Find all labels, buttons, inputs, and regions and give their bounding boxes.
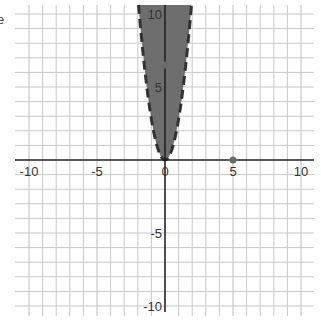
x-tick-label: 0 xyxy=(161,164,168,179)
plotted-point xyxy=(162,62,169,69)
x-tick-label: 10 xyxy=(294,164,308,179)
plotted-point xyxy=(230,157,237,164)
x-tick-label: 5 xyxy=(229,164,236,179)
y-tick-label: 5 xyxy=(155,80,162,95)
x-tick-label: -5 xyxy=(91,164,103,179)
y-tick-label: 10 xyxy=(148,7,162,22)
x-tick-label: -10 xyxy=(20,164,39,179)
y-tick-label: -5 xyxy=(150,226,162,241)
y-tick-label: -10 xyxy=(143,299,162,314)
coordinate-plane: -10-50510105-5-10 xyxy=(0,0,321,334)
axes xyxy=(15,5,314,312)
